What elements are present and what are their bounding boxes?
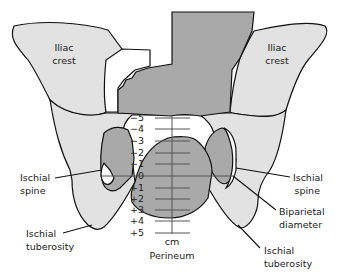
ischial-spine-right-line2: spine	[295, 185, 321, 196]
station-minus-3: −3	[130, 135, 144, 146]
station-minus-1: −1	[130, 158, 144, 169]
station-plus-1: +1	[130, 182, 144, 193]
iliac-crest-left-line1: Iliac	[54, 42, 73, 53]
perineum-label: Perineum	[150, 250, 195, 261]
iliac-crest-left-line2: crest	[52, 55, 76, 66]
station-plus-3: +3	[130, 204, 144, 215]
iliac-crest-right-line2: crest	[265, 55, 289, 66]
station-plus-2: +2	[130, 193, 144, 204]
ischial-tuberosity-left-line1: Ischial	[26, 228, 56, 239]
biparietal-diameter-line1: Biparietal	[279, 206, 325, 217]
station-minus-4: −4	[130, 123, 144, 134]
pelvis-diagram: −5 −4 −3 −2 −1 0 +1 +2 +3 +4 +5 cm Perin…	[0, 0, 338, 280]
ischial-spine-left-line1: Ischial	[20, 172, 50, 183]
ischial-spine-right-line1: Ischial	[293, 172, 323, 183]
station-minus-5: −5	[130, 112, 144, 123]
station-plus-5: +5	[130, 227, 144, 238]
ischial-tuberosity-right-line2: tuberosity	[264, 258, 312, 269]
biparietal-diameter-line2: diameter	[279, 219, 322, 230]
ischial-tuberosity-right-line1: Ischial	[264, 245, 294, 256]
unit-label: cm	[165, 236, 179, 247]
station-plus-4: +4	[130, 215, 144, 226]
iliac-crest-right-line1: Iliac	[267, 42, 286, 53]
ischial-spine-left-line2: spine	[20, 185, 46, 196]
station-minus-2: −2	[130, 147, 144, 158]
ischial-tuberosity-left-line2: tuberosity	[26, 241, 74, 252]
station-0: 0	[138, 170, 144, 181]
